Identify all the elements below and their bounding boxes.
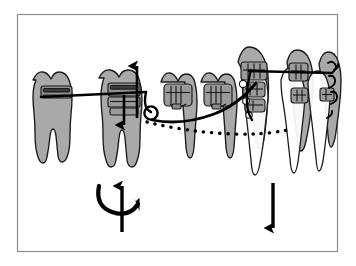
bracket-second-premolar[interactable] — [164, 84, 192, 109]
bracket-first-premolar[interactable] — [204, 84, 232, 109]
bracket-central-incisor[interactable] — [320, 88, 334, 101]
figure-canvas: Orthodontic mechanics: segmented arch in… — [0, 0, 356, 266]
orthodontic-diagram — [0, 0, 356, 266]
